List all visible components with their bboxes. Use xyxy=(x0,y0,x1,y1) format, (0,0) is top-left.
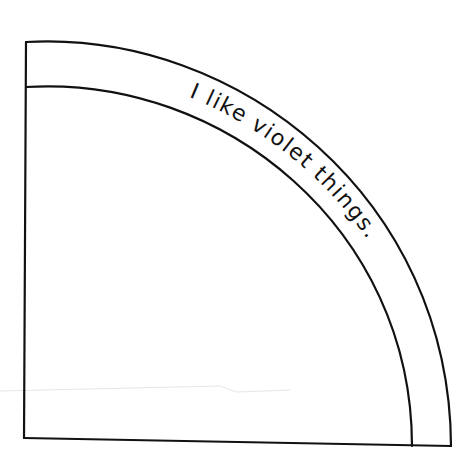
bottom-edge-line xyxy=(24,438,451,446)
inner-arc xyxy=(26,86,412,446)
band-text: I like violet things. xyxy=(187,78,385,243)
quarter-circle-figure: I like violet things. xyxy=(0,0,476,470)
left-edge-line xyxy=(24,42,26,438)
band-text-path: I like violet things. xyxy=(187,78,385,243)
scan-artifact-line xyxy=(0,386,290,392)
